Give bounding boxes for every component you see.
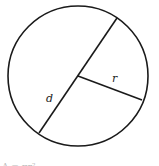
diameter-line [39, 18, 117, 133]
circle-diagram: d r A = πr² [0, 0, 159, 166]
caption-partial: A = πr² [1, 162, 36, 166]
diameter-label: d [46, 92, 53, 105]
radius-label: r [112, 72, 118, 85]
radius-line [78, 76, 142, 100]
